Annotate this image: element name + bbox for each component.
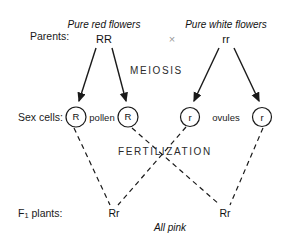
meiosis-arrow-rr-lower-to-gamete-4: [234, 48, 259, 101]
genetics-cross-diagram: Parents: Sex cells: F1 plants: Pure red …: [0, 0, 290, 239]
fertilization-line-gamete1-to-offspring1: [74, 128, 110, 205]
parent-1-phenotype: Pure red flowers: [68, 20, 141, 30]
row-label-parents: Parents:: [30, 31, 69, 42]
fertilization-line-gamete4-to-offspring2: [230, 128, 263, 205]
fertilization-line-gamete2-to-offspring2: [132, 128, 220, 205]
meiosis-arrow-rr-to-gamete-1: [79, 48, 96, 101]
row-label-sex-cells: Sex cells:: [18, 112, 63, 123]
gamete-allele-4: r: [260, 113, 263, 123]
meiosis-arrow-rr-lower-to-gamete-3: [194, 48, 219, 101]
offspring-genotype-2: Rr: [219, 208, 230, 219]
cross-symbol: ×: [169, 34, 175, 45]
diagram-caption: All pink: [154, 223, 186, 233]
gamete-allele-3: r: [188, 113, 191, 123]
gamete-group-label-pollen: pollen: [89, 113, 114, 123]
gamete-allele-1: R: [73, 112, 80, 122]
gamete-allele-2: R: [125, 112, 132, 122]
stage-label-meiosis: MEIOSIS: [130, 66, 183, 76]
stage-label-fertilization: FERTILIZATION: [118, 147, 212, 157]
parent-1-genotype: RR: [96, 34, 112, 45]
meiosis-arrow-rr-to-gamete-2: [112, 48, 126, 101]
row-label-f1-plants: F1 plants:: [18, 208, 62, 220]
offspring-genotype-1: Rr: [108, 208, 119, 219]
gamete-group-label-ovules: ovules: [212, 113, 239, 123]
parent-2-phenotype: Pure white flowers: [185, 20, 267, 30]
f1-label-suffix: plants:: [29, 207, 63, 219]
parent-2-genotype: rr: [222, 34, 229, 45]
